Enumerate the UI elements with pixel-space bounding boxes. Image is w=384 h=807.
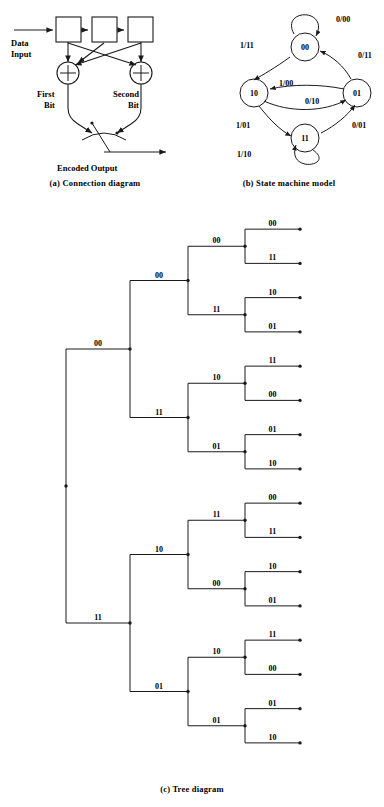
tree-branch-label-d3-n10: 10 [269,562,277,571]
tree-leaf-d4-n3 [298,330,301,333]
commutator-contact-2 [115,131,118,134]
tree-branch-label-d3-n5: 00 [269,390,277,399]
state-label-11: 11 [301,134,309,143]
tree-branch-label-d2-n0: 00 [213,236,221,245]
transition-label-0-00: 0/00 [336,15,350,24]
first-bit-label-line1: First [37,89,55,99]
xor-adder-1-plus [60,65,76,81]
tree-diagram-caption: (c) Tree diagram [0,784,384,794]
tree-leaf-d4-n11 [298,604,301,607]
tree-branch-label-d3-n1: 11 [269,253,277,262]
register-box-3 [128,17,153,42]
tree-branch-label-d3-n0: 00 [269,219,277,228]
tree-branch-label-d3-n15: 10 [269,733,277,742]
tree-branch-label-d2-n6: 10 [213,647,221,656]
tree-branch-label-d3-n9: 11 [269,527,277,536]
tree-leaf-d4-n0 [298,227,301,230]
tap-1-to-adder-2 [68,43,136,65]
tree-branch-label-d2-n3: 01 [213,442,221,451]
commutator-arc [82,133,126,140]
tree-branch-label-d0-n1: 11 [94,613,102,622]
tree-leaf-d4-n6 [298,433,301,436]
tree-leaf-d4-n15 [298,741,301,744]
second-bit-label-line1: Second [113,89,139,99]
connection-diagram-svg: Data Input First Bit Second Bit Encoded … [0,0,190,195]
tree-branch-label-d2-n2: 10 [213,373,221,382]
transition-label-1-11: 1/11 [240,41,254,50]
tree-branch-label-d1-n0: 00 [155,271,163,280]
data-input-label-line2: Input [11,49,31,59]
tree-branch-label-d3-n14: 01 [269,699,277,708]
tree-branch-label-d1-n1: 11 [155,408,163,417]
connection-diagram-caption: (a) Connection diagram [0,178,190,188]
state-label-10: 10 [250,89,258,98]
tree-leaf-d4-n4 [298,364,301,367]
state-label-01: 01 [353,89,361,98]
tree-diagram-svg: 0011001110010011100111001001001110011100… [0,200,384,780]
tree-branch-label-d3-n13: 00 [269,664,277,673]
tree-branch-label-d3-n4: 11 [269,356,277,365]
tree-branch-label-d2-n4: 11 [213,510,221,519]
tap-3-to-adder-1 [75,43,141,65]
tree-branch-label-d1-n2: 10 [155,545,163,554]
state-machine-diagram: 00 10 01 11 0/00 1/11 0/11 1/00 0/10 1/0… [190,0,384,195]
transition-10-to-11 [259,106,291,136]
tree-branch-label-d3-n3: 01 [269,322,277,331]
tree-leaf-d4-n5 [298,399,301,402]
state-label-00: 00 [301,43,309,52]
tree-diagram: 0011001110010011100111001001001110011100… [0,200,384,780]
connection-diagram: Data Input First Bit Second Bit Encoded … [0,0,190,195]
encoded-output-label: Encoded Output [57,163,117,173]
state-machine-caption: (b) State machine model [194,178,384,188]
transition-label-0-10: 0/10 [305,97,319,106]
tree-branch-label-d3-n6: 01 [269,425,277,434]
tree-branch-label-d0-n0: 00 [94,339,102,348]
tree-leaf-d4-n12 [298,638,301,641]
transition-11-to-01 [321,105,355,133]
tree-leaf-d4-n13 [298,673,301,676]
tree-leaf-d4-n8 [298,501,301,504]
xor-adder-2-plus [133,65,149,81]
second-bit-label-line2: Bit [128,100,139,110]
tree-leaf-d4-n7 [298,467,301,470]
tree-branch-label-d3-n11: 01 [269,596,277,605]
tree-branch-label-d3-n2: 10 [269,288,277,297]
state-machine-svg: 00 10 01 11 0/00 1/11 0/11 1/00 0/10 1/0… [190,0,384,195]
transition-label-1-00: 1/00 [279,79,293,88]
tree-branch-label-d2-n7: 01 [213,716,221,725]
data-input-label-line1: Data [11,38,29,48]
tree-branch-label-d3-n8: 00 [269,493,277,502]
transition-label-0-11: 0/11 [358,51,372,60]
tree-leaf-d4-n2 [298,296,301,299]
transition-label-0-01: 0/01 [352,121,366,130]
commutator-arm [92,123,110,152]
register-box-2 [92,17,117,42]
tree-branch-label-d2-n1: 11 [213,305,221,314]
register-box-1 [56,17,81,42]
transition-label-1-10: 1/10 [237,150,251,159]
tree-branch-label-d1-n3: 01 [155,682,163,691]
tree-branch-label-d3-n7: 10 [269,459,277,468]
tree-leaf-d4-n10 [298,570,301,573]
transition-01-to-00 [320,51,351,79]
tree-leaf-d4-n9 [298,536,301,539]
transition-00-to-10 [254,57,290,80]
commutator-contact-1 [90,121,93,124]
first-bit-path [68,84,92,133]
tree-branch-label-d2-n5: 00 [213,579,221,588]
tree-branch-label-d3-n12: 11 [269,630,277,639]
first-bit-label-line2: Bit [44,100,55,110]
transition-label-1-01: 1/01 [236,121,250,130]
tree-leaf-d4-n1 [298,262,301,265]
tree-leaf-d4-n14 [298,707,301,710]
